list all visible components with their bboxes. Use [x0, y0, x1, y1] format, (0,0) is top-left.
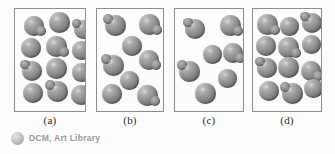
sphere-marker [220, 15, 241, 36]
sphere-marker [302, 35, 321, 54]
panel-canvas [253, 9, 321, 111]
sphere-marker [278, 57, 299, 78]
sphere-marker [139, 14, 160, 35]
sphere-marker [179, 61, 200, 82]
sphere-marker [21, 38, 41, 58]
figure-root: (a)(b)(c)(d) DCM, Art Library [0, 0, 335, 154]
panel-box [96, 8, 164, 112]
sphere-marker [46, 36, 67, 57]
panel-1 [14, 8, 86, 112]
sphere-marker [280, 17, 299, 36]
sphere-marker [203, 45, 222, 64]
sphere-marker [302, 13, 322, 33]
sphere-marker [22, 61, 42, 81]
sphere-marker [49, 12, 70, 33]
panel-canvas [97, 9, 163, 111]
sphere-marker [257, 14, 278, 35]
sphere-marker [72, 63, 86, 82]
sphere-marker [256, 36, 276, 56]
sphere-marker [72, 41, 86, 60]
panel-4 [252, 8, 322, 112]
sphere-marker [259, 81, 279, 101]
sphere-icon [11, 132, 24, 145]
sphere-marker [122, 36, 142, 56]
sphere-marker [24, 16, 44, 36]
sphere-marker [120, 71, 139, 90]
panel-box [252, 8, 322, 112]
panel-3 [174, 8, 244, 112]
sphere-marker [47, 81, 68, 102]
sphere-marker [185, 19, 205, 39]
credit-line: DCM, Art Library [11, 130, 100, 146]
sphere-marker [103, 55, 124, 76]
sphere-marker [139, 50, 159, 70]
sphere-marker [301, 61, 321, 81]
panel-row: (a)(b)(c)(d) [0, 0, 335, 112]
sphere-marker [23, 83, 43, 103]
sphere-marker [278, 37, 299, 58]
sphere-marker [137, 85, 158, 106]
sphere-marker [195, 83, 216, 104]
sphere-marker [74, 20, 86, 39]
panel-label-3: (c) [174, 114, 244, 126]
panel-canvas [175, 9, 243, 111]
credit-text: DCM, Art Library [29, 133, 100, 143]
sphere-marker [218, 69, 237, 88]
panel-canvas [15, 9, 85, 111]
sphere-marker [71, 85, 86, 105]
panel-2 [96, 8, 164, 112]
sphere-marker [105, 15, 126, 36]
sphere-marker [46, 58, 67, 79]
sphere-marker [304, 79, 322, 98]
sphere-marker [257, 58, 277, 78]
panel-box [14, 8, 86, 112]
panel-label-2: (b) [96, 114, 164, 126]
panel-label-1: (a) [14, 114, 86, 126]
sphere-marker [223, 43, 243, 63]
panel-label-4: (d) [252, 114, 322, 126]
panel-box [174, 8, 244, 112]
sphere-marker [282, 83, 303, 104]
sphere-marker [102, 84, 122, 104]
